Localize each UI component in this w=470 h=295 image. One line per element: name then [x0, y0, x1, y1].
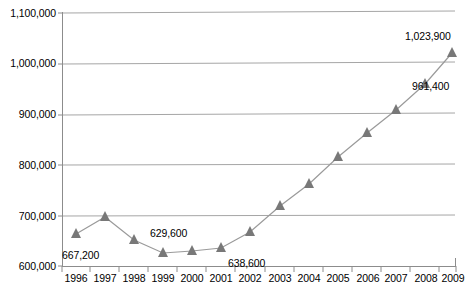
data-label-2001: 638,600	[228, 258, 265, 269]
series-markers	[71, 47, 457, 257]
x-tick-label: 1996	[65, 273, 88, 284]
data-label-1996: 667,200	[62, 250, 99, 261]
x-tick-label: 2006	[357, 273, 380, 284]
x-tick-label: 2004	[298, 273, 321, 284]
x-tick-label: 2000	[181, 273, 204, 284]
x-tick-label: 1999	[152, 273, 175, 284]
series-line	[76, 53, 452, 253]
x-axis-labels: 1996 1997 1998 1999 2000 2001 2002 2003 …	[0, 273, 470, 293]
x-tick-label: 2009	[442, 273, 465, 284]
x-tick-label: 2003	[269, 273, 292, 284]
y-axis-ticks	[58, 13, 62, 266]
data-label-2009: 1,023,900	[405, 31, 451, 42]
x-tick-label: 2005	[327, 273, 350, 284]
line-chart: 1,100,000 1,000,000 900,000 800,000 700,…	[0, 0, 470, 295]
x-tick-label: 2001	[210, 273, 233, 284]
data-label-2008: 961,400	[412, 81, 449, 92]
x-tick-label: 2008	[415, 273, 438, 284]
x-tick-label: 1997	[94, 273, 117, 284]
x-tick-label: 2002	[239, 273, 262, 284]
x-tick-label: 2007	[385, 273, 408, 284]
data-label-1999: 629,600	[150, 228, 187, 239]
x-tick-label: 1998	[123, 273, 146, 284]
